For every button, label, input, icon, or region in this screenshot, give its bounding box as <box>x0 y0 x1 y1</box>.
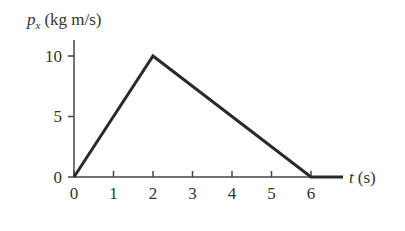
y-ticks <box>68 56 74 117</box>
momentum-series-line <box>74 56 343 177</box>
svg-text:1: 1 <box>109 184 118 203</box>
svg-text:0: 0 <box>70 184 79 203</box>
svg-text:6: 6 <box>307 184 316 203</box>
svg-text:2: 2 <box>149 184 158 203</box>
y-tick-labels: 10 5 0 <box>45 47 62 187</box>
svg-text:0: 0 <box>54 168 63 187</box>
svg-text:3: 3 <box>188 184 197 203</box>
x-tick-labels: 0 1 2 3 4 5 6 <box>70 184 316 203</box>
x-axis-label: t(s) <box>349 168 376 187</box>
momentum-time-chart: px(kg m/s) 10 5 0 0 1 2 3 4 5 6 t(s) <box>0 0 405 231</box>
x-ticks <box>74 171 311 177</box>
svg-text:5: 5 <box>54 107 63 126</box>
y-axis-label: px(kg m/s) <box>26 10 102 31</box>
svg-text:10: 10 <box>45 47 62 66</box>
svg-text:4: 4 <box>228 184 237 203</box>
svg-text:5: 5 <box>267 184 276 203</box>
